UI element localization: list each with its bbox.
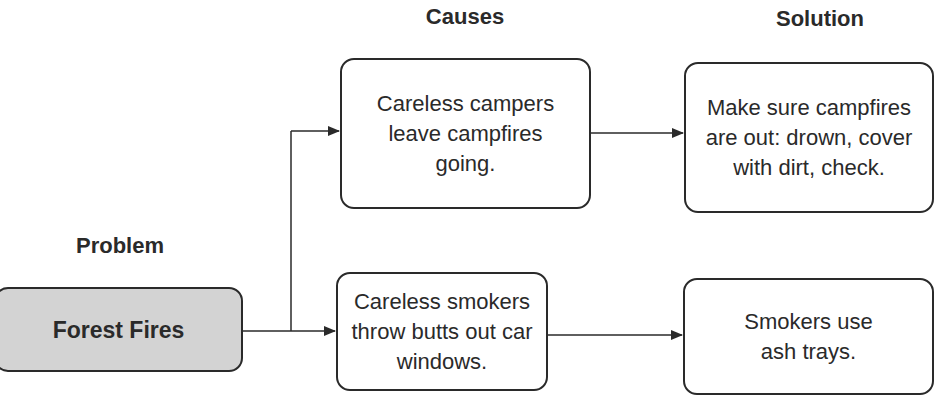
solution-box-2: Smokers use ash trays. — [683, 278, 934, 395]
solution-heading: Solution — [745, 6, 895, 32]
cause-box-2: Careless smokers throw butts out car win… — [336, 272, 548, 391]
problem-heading: Problem — [40, 233, 200, 259]
solution-box-1: Make sure campfires are out: drown, cove… — [684, 62, 934, 213]
problem-box: Forest Fires — [0, 287, 243, 372]
causes-heading: Causes — [380, 4, 550, 30]
cause-box-1: Careless campers leave campfires going. — [340, 58, 591, 209]
